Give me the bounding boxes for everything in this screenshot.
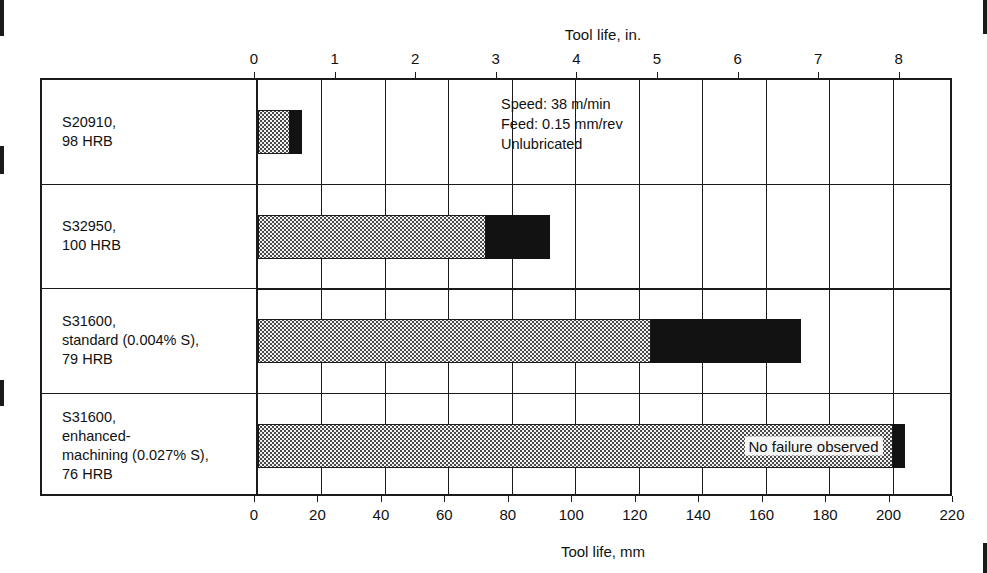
top-tick-label-6: 6 bbox=[718, 50, 758, 67]
plot-area: No failure observed Speed: 38 m/min Feed… bbox=[256, 80, 950, 494]
page-edge-mark-lower-left bbox=[0, 380, 4, 406]
bar-0 bbox=[258, 110, 302, 154]
bottom-tick-label-220: 220 bbox=[932, 506, 972, 523]
bar-2 bbox=[258, 319, 801, 363]
top-tick-label-4: 4 bbox=[556, 50, 596, 67]
bottom-tick-label-120: 120 bbox=[615, 506, 655, 523]
bottom-tick-label-100: 100 bbox=[551, 506, 591, 523]
bar-segment-solid-0 bbox=[290, 110, 303, 154]
bottom-tick-0 bbox=[254, 496, 255, 502]
bottom-tick-140 bbox=[698, 496, 699, 502]
bottom-tick-label-140: 140 bbox=[678, 506, 718, 523]
bar-1 bbox=[258, 215, 550, 259]
category-cell-2: S31600, standard (0.004% S), 79 HRB bbox=[42, 289, 256, 394]
top-tick-label-8: 8 bbox=[879, 50, 919, 67]
category-cell-0: S20910, 98 HRB bbox=[42, 80, 256, 185]
category-cell-3: S31600, enhanced- machining (0.027% S), … bbox=[42, 394, 256, 499]
bottom-tick-label-20: 20 bbox=[297, 506, 337, 523]
bottom-tick-60 bbox=[444, 496, 445, 502]
bottom-tick-label-40: 40 bbox=[361, 506, 401, 523]
top-tick-label-7: 7 bbox=[798, 50, 838, 67]
page-edge-mark-bottom-right bbox=[983, 543, 987, 573]
bar-annotation-0: No failure observed bbox=[744, 436, 882, 455]
bar-row-3: No failure observed bbox=[258, 394, 950, 499]
bar-row-1 bbox=[258, 185, 950, 290]
bottom-tick-200 bbox=[889, 496, 890, 502]
bottom-tick-160 bbox=[762, 496, 763, 502]
top-tick-label-3: 3 bbox=[476, 50, 516, 67]
category-label-1: S32950, 100 HRB bbox=[42, 217, 121, 255]
bar-segment-stippled-0 bbox=[258, 110, 290, 154]
category-label-2: S31600, standard (0.004% S), 79 HRB bbox=[42, 312, 199, 369]
bar-segment-stippled-1 bbox=[258, 215, 486, 259]
bottom-tick-40 bbox=[381, 496, 382, 502]
page-edge-mark-mid-left bbox=[0, 146, 4, 174]
conditions-annotation: Speed: 38 m/min Feed: 0.15 mm/rev Unlubr… bbox=[501, 94, 623, 154]
bottom-tick-100 bbox=[571, 496, 572, 502]
category-label-3: S31600, enhanced- machining (0.027% S), … bbox=[42, 408, 209, 484]
bar-segment-solid-2 bbox=[651, 319, 800, 363]
page-edge-mark-top-left bbox=[0, 0, 4, 36]
bottom-tick-120 bbox=[635, 496, 636, 502]
bottom-tick-label-80: 80 bbox=[488, 506, 528, 523]
category-cell-1: S32950, 100 HRB bbox=[42, 185, 256, 290]
top-tick-label-1: 1 bbox=[315, 50, 355, 67]
bottom-tick-220 bbox=[952, 496, 953, 502]
category-label-column: S20910, 98 HRBS32950, 100 HRBS31600, sta… bbox=[42, 80, 256, 494]
bar-segment-solid-1 bbox=[486, 215, 549, 259]
bottom-tick-label-0: 0 bbox=[234, 506, 274, 523]
bar-segment-solid-3 bbox=[893, 424, 906, 468]
page-edge-mark-top-right bbox=[983, 0, 987, 34]
bar-row-2 bbox=[258, 289, 950, 394]
bottom-tick-180 bbox=[825, 496, 826, 502]
top-tick-label-5: 5 bbox=[637, 50, 677, 67]
top-tick-label-0: 0 bbox=[234, 50, 274, 67]
category-label-0: S20910, 98 HRB bbox=[42, 113, 116, 151]
top-axis-title: Tool life, in. bbox=[254, 26, 952, 43]
bottom-tick-80 bbox=[508, 496, 509, 502]
bottom-tick-20 bbox=[317, 496, 318, 502]
chart-plot-frame: S20910, 98 HRBS32950, 100 HRBS31600, sta… bbox=[40, 78, 952, 496]
bottom-tick-label-160: 160 bbox=[742, 506, 782, 523]
bar-segment-stippled-2 bbox=[258, 319, 651, 363]
bottom-tick-label-180: 180 bbox=[805, 506, 845, 523]
bottom-tick-label-60: 60 bbox=[424, 506, 464, 523]
bottom-axis-title: Tool life, mm bbox=[254, 543, 952, 560]
bottom-tick-label-200: 200 bbox=[869, 506, 909, 523]
top-tick-label-2: 2 bbox=[395, 50, 435, 67]
